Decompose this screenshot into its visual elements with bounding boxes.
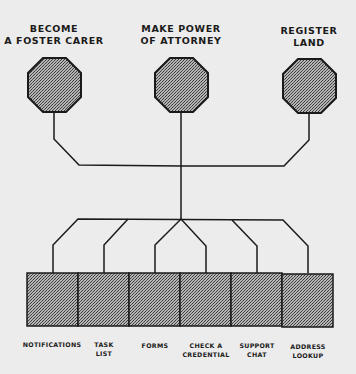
component-label-address-lookup: ADDRESS LOOKUP bbox=[273, 342, 343, 360]
component-box-support-chat[interactable] bbox=[231, 273, 282, 326]
service-octagon-power-of-attorney[interactable] bbox=[155, 58, 208, 112]
component-strip bbox=[27, 273, 333, 327]
diagram-canvas: BECOME A FOSTER CARER MAKE POWER OF ATTO… bbox=[0, 0, 356, 374]
component-box-task-list[interactable] bbox=[78, 273, 129, 326]
service-octagon-register-land[interactable] bbox=[283, 59, 336, 113]
component-box-address-lookup[interactable] bbox=[282, 274, 333, 327]
component-box-check-credential[interactable] bbox=[180, 273, 231, 326]
service-label-power-of-attorney: MAKE POWER OF ATTORNEY bbox=[121, 23, 241, 47]
connector-diagram bbox=[0, 0, 356, 374]
lower-connectors bbox=[53, 219, 308, 273]
component-box-notifications[interactable] bbox=[27, 273, 78, 326]
service-octagon-foster-carer[interactable] bbox=[28, 58, 81, 112]
service-label-foster-carer: BECOME A FOSTER CARER bbox=[0, 23, 114, 47]
service-label-register-land: REGISTER LAND bbox=[249, 25, 356, 49]
upper-connectors bbox=[54, 112, 309, 219]
component-box-forms[interactable] bbox=[129, 273, 180, 326]
